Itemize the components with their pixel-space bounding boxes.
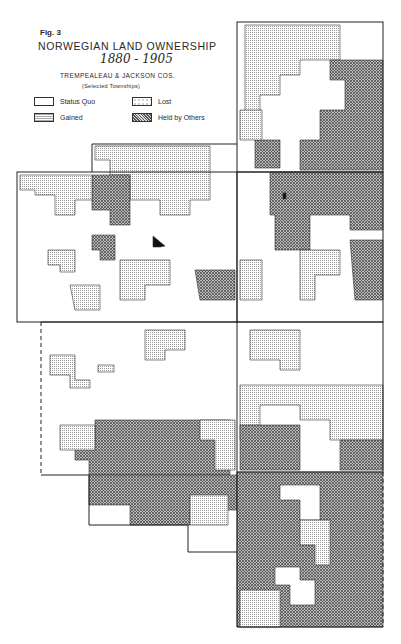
parcels (20, 25, 383, 627)
township-map (0, 0, 401, 644)
